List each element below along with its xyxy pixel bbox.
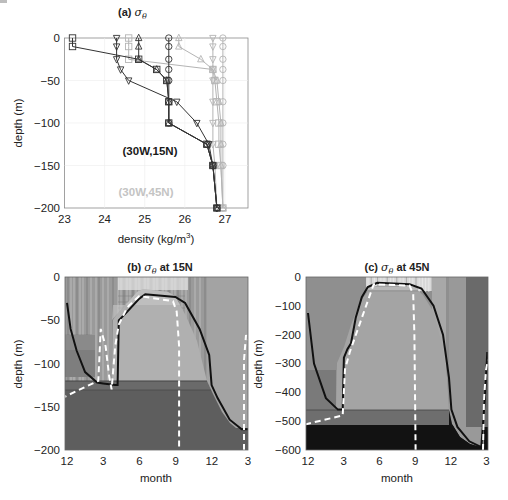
panel-b-ylabel: depth (m) [12,339,24,388]
xtick-label: 3 [340,455,346,467]
panel-a: (a) σθ 0−50−100−150−200 2324252627 depth… [12,6,248,245]
ytick-label: −400 [275,386,301,398]
ytick-label: 0 [295,271,301,283]
xtick-label: 6 [136,455,142,467]
xtick-label: 25 [138,213,151,225]
xtick-label: 9 [412,455,418,467]
xtick-label: 3 [100,455,106,467]
panel-a-xlabel: density (kg/m3) [118,231,195,245]
panel-c-yticks: 0−100−200−300−400−500−600 [275,271,301,456]
ytick-label: −100 [34,358,60,370]
panel-c-xticks: 12369123 [302,455,490,467]
panel-a-yticks: 0−50−100−150−200 [34,32,60,214]
ytick-label: −200 [34,202,60,214]
corner-mark [0,0,7,3]
ytick-label: −50 [40,314,60,326]
xtick-label: 12 [302,455,315,467]
ytick-label: −100 [275,300,301,312]
label-30w-15n: (30W,15N) [123,145,178,157]
xtick-label: 12 [444,455,457,467]
ytick-label: −600 [275,444,301,456]
xtick-label: 12 [205,455,218,467]
xtick-label: 6 [376,455,382,467]
ytick-label: −150 [34,160,60,172]
panel-c-title: (c) σθ at 45N [365,261,430,276]
xtick-label: 24 [98,213,111,225]
panel-c-ylabel: depth (m) [252,339,264,388]
ytick-label: −150 [34,401,60,413]
panel-b-xticks: 12369123 [61,455,252,467]
ytick-label: −200 [34,444,60,456]
ytick-label: −500 [275,415,301,427]
panel-c-xlabel: month [381,472,413,484]
xtick-label: 27 [219,213,232,225]
xtick-label: 12 [61,455,74,467]
panel-b: (b) σθ at 15N 0−50−100−150−200 12369123 [0,261,251,484]
panel-a-ylabel: depth (m) [12,98,24,147]
xtick-label: 26 [178,213,191,225]
ytick-label: −200 [275,329,301,341]
panel-a-title: (a) σθ [118,6,147,21]
ytick-label: 0 [54,271,60,283]
xtick-label: 3 [483,455,489,467]
label-30w-45n: (30W,45N) [119,186,174,198]
ytick-label: −100 [34,117,60,129]
panel-b-yticks: 0−50−100−150−200 [34,271,60,456]
xtick-label: 9 [172,455,178,467]
panel-a-xticks: 2324252627 [58,213,231,225]
panel-b-title: (b) σθ at 15N [127,261,193,276]
ytick-label: −300 [275,357,301,369]
panel-b-xlabel: month [140,472,172,484]
xtick-label: 3 [245,455,251,467]
xtick-label: 23 [58,213,71,225]
ytick-label: 0 [54,32,60,44]
figure: (a) σθ 0−50−100−150−200 2324252627 depth… [0,0,508,500]
ytick-label: −50 [40,75,60,87]
